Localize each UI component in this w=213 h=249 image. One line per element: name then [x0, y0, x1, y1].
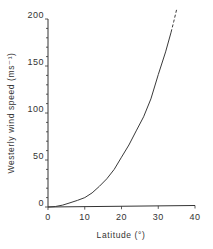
- y-axis-label: Westerly wind speed (ms⁻¹): [6, 52, 16, 173]
- y-tick-label: 50: [33, 151, 44, 161]
- data-series: [48, 10, 177, 207]
- chart: 050100150200 010203040 Latitude (°) West…: [0, 0, 213, 249]
- y-tick-label: 150: [27, 57, 44, 67]
- y-tick-labels: 050100150200: [27, 10, 44, 208]
- x-tick-label: 40: [189, 212, 200, 222]
- wind-speed-curve: [48, 32, 171, 207]
- x-axis-label: Latitude (°): [97, 230, 146, 240]
- y-axis: [45, 19, 48, 207]
- x-axis: [48, 206, 195, 211]
- x-tick-label: 20: [116, 212, 127, 222]
- x-tick-labels: 010203040: [45, 212, 200, 222]
- y-tick-label: 200: [27, 10, 44, 20]
- x-tick-label: 0: [45, 212, 51, 222]
- y-tick-label: 0: [38, 198, 44, 208]
- y-tick-label: 100: [27, 104, 44, 114]
- x-tick-label: 10: [79, 212, 90, 222]
- extrapolated-curve: [171, 10, 177, 33]
- x-tick-label: 30: [153, 212, 164, 222]
